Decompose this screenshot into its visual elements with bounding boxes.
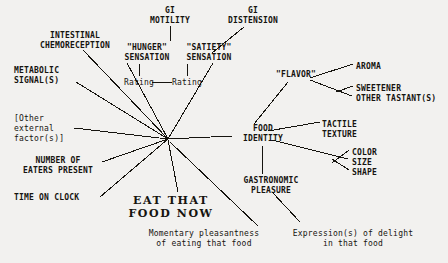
edge-external-factors--hub [74,128,168,139]
node-sweetener: SWEETENER [356,84,426,94]
edge-flavor--food-identity [254,82,288,124]
node-rating-satiety: Rating [166,78,208,88]
node-flavor: "FLAVOR" [268,70,324,80]
node-color: COLOR [352,148,398,158]
edge-hub--food-identity [168,136,232,139]
node-eat-that-food-now: EAT THAT FOOD NOW [122,194,220,220]
node-metabolic-signals: METABOLIC SIGNAL(S) [14,66,94,86]
node-momentary-pleasantness: Momentary pleasantness of eating that fo… [136,229,272,249]
edge-tastants--sweetener [336,86,353,92]
edge-eaters-present--hub [102,139,168,162]
node-aroma: AROMA [356,62,406,72]
node-gastronomic-pleasure: GASTRONOMIC PLEASURE [228,176,314,196]
concept-diagram: GI MOTILITYGI DISTENSIONINTESTINAL CHEMO… [0,0,448,263]
node-tactile-texture: TACTILE TEXTURE [322,120,382,140]
edge-flavor--tastants-stem [310,80,352,96]
node-shape: SHAPE [352,168,398,178]
edge-satiety--hub [168,63,213,139]
node-gi-motility: GI MOTILITY [140,6,200,26]
edge-gastronomic--expression [272,192,300,222]
node-gi-distension: GI DISTENSION [216,6,290,26]
node-size: SIZE [352,158,398,168]
node-food-identity: FOOD IDENTITY [232,124,294,144]
node-intestinal-chemoreception: INTESTINAL CHEMORECEPTION [22,31,128,51]
node-time-on-clock: TIME ON CLOCK [14,193,98,203]
node-number-of-eaters: NUMBER OF EATERS PRESENT [10,156,106,176]
edge-time-on-clock--hub [100,139,168,197]
edge-hunger--hub [127,63,168,139]
node-other-external-factors: [Other external factor(s)] [14,114,84,144]
node-other-tastants: OTHER TASTANT(S) [356,94,448,104]
node-expression-of-delight: Expression(s) of delight in that food [280,229,426,249]
edge-attributes--shape [332,159,349,170]
node-satiety-sensation: "SATIETY" SENSATION [178,43,240,63]
node-hunger-sensation: "HUNGER" SENSATION [116,43,178,63]
node-rating-hunger: Rating [118,78,160,88]
